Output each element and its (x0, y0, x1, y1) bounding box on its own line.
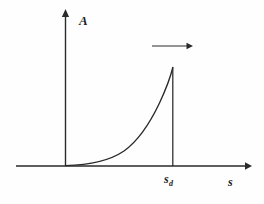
rightward-direction-arrow (152, 43, 193, 49)
threshold-label-subscript: d (169, 179, 173, 188)
x-axis-label: s (228, 176, 233, 188)
exponential-growth-plot (0, 0, 264, 204)
threshold-label: sd (164, 173, 173, 188)
y-axis-label: A (79, 14, 88, 27)
y-axis-arrowhead (62, 9, 69, 17)
amplitude-growth-curve (66, 68, 173, 166)
figure-container: A sd s (0, 0, 264, 204)
x-axis (16, 162, 252, 169)
x-axis-arrowhead (245, 162, 252, 169)
direction-arrow-head (187, 43, 194, 49)
y-axis (62, 9, 69, 166)
threshold-label-base: s (164, 172, 169, 186)
